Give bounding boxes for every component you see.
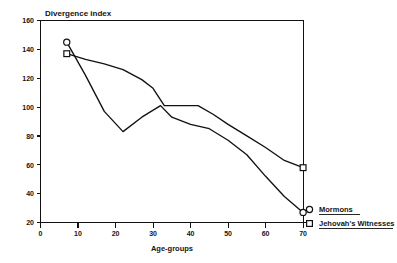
legend-marker-circle-icon [306,206,312,212]
x-tick-label-70: 70 [299,230,307,237]
divergence-index-chart: 160 140 120 100 80 60 40 20 0 10 20 30 4… [0,0,397,263]
chart-legend: Mormons Jehovah's Witnesses [306,205,394,228]
x-tick-label-40: 40 [187,230,195,237]
y-tick-label-160: 160 [22,17,34,24]
series-line-jehovahs-witnesses [67,54,303,168]
chart-canvas: 160 140 120 100 80 60 40 20 0 10 20 30 4… [0,0,397,263]
marker-jw-start [64,51,70,57]
y-tick-label-20: 20 [26,219,34,226]
y-tick-label-60: 60 [26,162,34,169]
marker-jw-end [300,165,306,171]
x-axis-ticks [41,223,304,228]
marker-mormons-start [64,39,70,45]
y-tick-label-140: 140 [22,46,34,53]
x-tick-label-20: 20 [112,230,120,237]
legend-label-jehovahs-witnesses[interactable]: Jehovah's Witnesses [319,219,395,228]
x-tick-label-10: 10 [74,230,82,237]
y-tick-label-40: 40 [26,190,34,197]
x-tick-label-60: 60 [262,230,270,237]
x-tick-label-50: 50 [224,230,232,237]
legend-marker-square-icon [307,221,313,227]
marker-mormons-end [300,209,306,215]
x-tick-label-30: 30 [149,230,157,237]
series-line-mormons [67,42,303,212]
legend-label-mormons[interactable]: Mormons [319,205,353,214]
y-tick-label-80: 80 [26,133,34,140]
series-markers [64,39,307,215]
y-tick-label-120: 120 [22,75,34,82]
y-tick-label-100: 100 [22,104,34,111]
x-axis-title: Age-groups [151,244,193,253]
chart-title: Divergence index [45,9,112,18]
x-tick-label-0: 0 [39,230,43,237]
